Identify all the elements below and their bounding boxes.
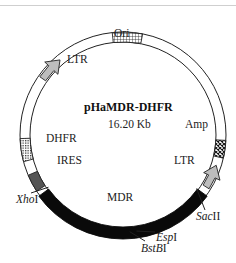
label-ltr-3: LTR [174, 154, 195, 166]
plasmid-map: Ori LTR pHaMDR-DHFR 16.20 Kb Amp LTR DHF… [0, 0, 236, 263]
site-bstbi-italic: BstB [141, 242, 163, 254]
label-dhfr: DHFR [46, 132, 77, 144]
site-espi-roman: I [173, 231, 177, 243]
amp-segment [214, 140, 226, 158]
label-mdr: MDR [107, 191, 134, 203]
plasmid-name: pHaMDR-DHFR [84, 100, 173, 114]
site-sacii-italic: Sac [196, 210, 213, 222]
site-xhoi-italic: Xho [15, 193, 35, 205]
plasmid-size: 16.20 Kb [108, 118, 151, 130]
dhfr-segment [20, 138, 33, 161]
label-amp: Amp [185, 118, 208, 131]
ires-segment [28, 171, 45, 191]
label-ltr-5: LTR [67, 53, 88, 65]
label-ires: IRES [57, 154, 82, 166]
site-xhoi-roman: I [35, 193, 39, 205]
site-label-bstbi: BstBI [141, 242, 167, 254]
site-label-xhoi: XhoI [15, 193, 39, 205]
site-bstbi-roman: I [163, 242, 167, 254]
site-label-sacii: SacII [196, 210, 220, 222]
site-sacii-roman: II [213, 210, 221, 222]
label-ori: Ori [114, 27, 129, 39]
